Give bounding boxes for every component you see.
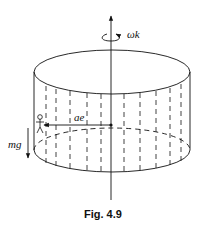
cylinder-dashed-generators bbox=[46, 84, 181, 172]
rotating-cylinder-diagram: ωk ae mg Fig. 4.9 bbox=[0, 0, 204, 225]
person-figure-icon bbox=[36, 115, 44, 133]
cylinder-bottom-back-rim bbox=[34, 128, 190, 150]
omega-k-label: ωk bbox=[127, 28, 141, 40]
axis-center-dot bbox=[109, 123, 112, 126]
mg-label: mg bbox=[8, 138, 22, 150]
figure-caption: Fig. 4.9 bbox=[84, 208, 122, 220]
cylinder-bottom-front-rim bbox=[34, 150, 190, 172]
ae-label: ae bbox=[74, 111, 85, 123]
cylinder-top-rim bbox=[34, 50, 190, 94]
